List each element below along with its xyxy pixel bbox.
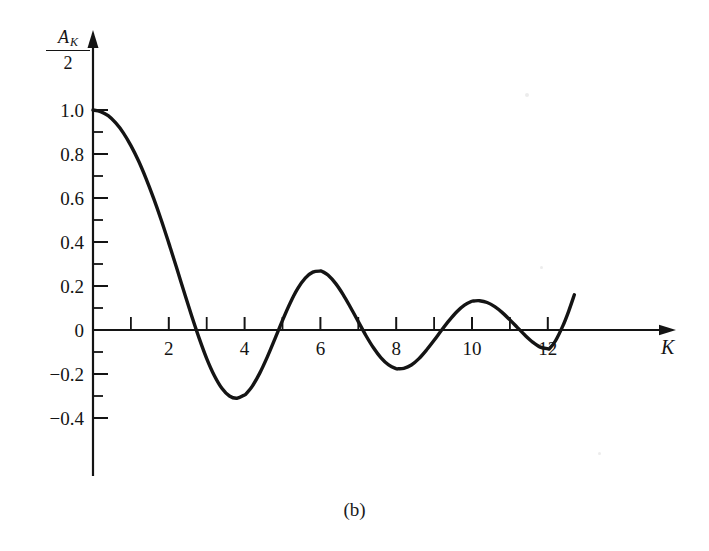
y-axis-title-denominator: 2 bbox=[46, 51, 90, 72]
x-axis-arrowhead bbox=[659, 325, 676, 335]
plot-canvas bbox=[0, 0, 709, 551]
x-tick-label: 12 bbox=[538, 339, 557, 358]
figure-caption: (b) bbox=[0, 500, 709, 519]
y-axis-title-numerator: AK bbox=[46, 28, 90, 51]
y-axis-title-subscript: K bbox=[69, 35, 78, 49]
y-tick-label: 1.0 bbox=[60, 101, 84, 120]
x-tick-label: 4 bbox=[240, 339, 250, 358]
x-tick-label: 8 bbox=[391, 339, 401, 358]
ticks-group bbox=[93, 110, 548, 418]
y-axis-title: AK 2 bbox=[46, 28, 90, 72]
axes-group bbox=[88, 30, 677, 476]
figure-panel: AK 2 K 1.00.80.60.40.20−0.2−0.4 24681012… bbox=[0, 0, 709, 551]
x-tick-label: 6 bbox=[316, 339, 326, 358]
x-tick-label: 2 bbox=[164, 339, 174, 358]
x-tick-label: 10 bbox=[463, 339, 482, 358]
y-tick-label: 0.4 bbox=[60, 233, 84, 252]
y-tick-label: 0.8 bbox=[60, 145, 84, 164]
y-tick-label: 0 bbox=[75, 321, 85, 340]
y-tick-label: 0.6 bbox=[60, 189, 84, 208]
y-tick-label: −0.2 bbox=[50, 365, 84, 384]
y-tick-label: −0.4 bbox=[50, 409, 84, 428]
y-tick-label: 0.2 bbox=[60, 277, 84, 296]
x-axis-title: K bbox=[661, 337, 674, 357]
